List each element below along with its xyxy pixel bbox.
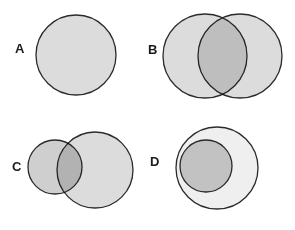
panel-a-group (36, 15, 116, 95)
panel-d-group (176, 127, 258, 209)
panel-c-group (28, 132, 133, 208)
panel-b-group (163, 14, 282, 98)
circle-b2 (198, 14, 282, 98)
circle-diagram-svg (0, 0, 295, 230)
panel-label-a: A (15, 42, 24, 55)
panel-label-b: B (148, 43, 157, 56)
panel-label-d: D (150, 155, 159, 168)
circle-c-small (28, 140, 82, 194)
circle-a1 (36, 15, 116, 95)
figure-container: A B C D (0, 0, 295, 230)
panel-label-c: C (12, 160, 21, 173)
circle-d-small (180, 140, 232, 192)
